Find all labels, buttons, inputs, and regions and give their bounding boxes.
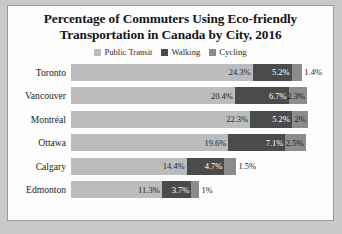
bar-value-label-walking: 5.2% xyxy=(272,114,290,124)
bar-track: 20.4%6.7%2.3% xyxy=(71,87,324,104)
bar-segment-public-transit[interactable]: 11.3% xyxy=(71,181,162,198)
bar-segment-walking[interactable]: 4.7% xyxy=(187,158,225,175)
bar-segment-public-transit[interactable]: 20.4% xyxy=(71,87,235,104)
category-label-toronto: Toronto xyxy=(8,67,71,78)
stacked-bar: 20.4%6.7%2.3% xyxy=(71,87,324,104)
legend-item-public-transit[interactable]: Public Transit xyxy=(94,47,152,57)
bar-segment-public-transit[interactable]: 19.6% xyxy=(71,134,228,151)
bar-value-label-walking: 5.2% xyxy=(272,67,290,77)
category-label-montral: Montréal xyxy=(8,114,71,125)
bar-value-label-walking: 6.7% xyxy=(269,91,287,101)
bar-segment-public-transit[interactable]: 24.3% xyxy=(71,64,253,81)
bar-track: 24.3%5.2%1.4% xyxy=(71,64,324,81)
bar-segment-cycling[interactable]: 2% xyxy=(292,111,308,128)
legend-item-cycling[interactable]: Cycling xyxy=(209,47,246,57)
category-label-edmonton: Edmonton xyxy=(8,184,71,195)
legend-swatch-cycling xyxy=(209,49,216,56)
legend-swatch-walking xyxy=(161,49,168,56)
bar-value-label-walking: 3.7% xyxy=(172,185,190,195)
bar-value-label-cycling: 2% xyxy=(295,114,306,124)
bar-row: Calgary14.4%4.7%1.5% xyxy=(8,157,324,175)
bar-value-label-walking: 4.7% xyxy=(205,161,223,171)
bar-segment-public-transit[interactable]: 22.3% xyxy=(71,111,250,128)
bar-segment-walking[interactable]: 5.2% xyxy=(250,111,292,128)
bar-track: 11.3%3.7%1% xyxy=(71,181,324,198)
bar-segment-cycling[interactable] xyxy=(224,158,236,175)
bar-row: Edmonton11.3%3.7%1% xyxy=(8,181,324,199)
bar-value-label-wrap-cycling: 1% xyxy=(199,181,214,198)
chart-title-line-2: Transportation in Canada by City, 2016 xyxy=(16,27,325,43)
bar-value-label-public-transit: 19.6% xyxy=(204,138,226,148)
bar-value-label-public-transit: 20.4% xyxy=(211,91,233,101)
chart-title-line-1: Percentage of Commuters Using Eco-friend… xyxy=(16,11,325,27)
chart-legend: Public Transit Walking Cycling xyxy=(8,46,333,58)
stacked-bar: 22.3%5.2%2% xyxy=(71,111,324,128)
plot-area: Toronto24.3%5.2%1.4%Vancouver20.4%6.7%2.… xyxy=(8,63,333,199)
bar-segment-walking[interactable]: 3.7% xyxy=(162,181,192,198)
bar-value-label-wrap-cycling: 1.5% xyxy=(236,158,258,175)
bar-segment-cycling[interactable]: 2.5% xyxy=(285,134,305,151)
legend-label-public-transit: Public Transit xyxy=(104,47,152,57)
stacked-bar: 24.3%5.2%1.4% xyxy=(71,64,324,81)
category-label-vancouver: Vancouver xyxy=(8,90,71,101)
stacked-bar: 14.4%4.7%1.5% xyxy=(71,158,324,175)
bar-segment-walking[interactable]: 7.1% xyxy=(228,134,285,151)
bar-segment-walking[interactable]: 6.7% xyxy=(235,87,289,104)
bar-row: Vancouver20.4%6.7%2.3% xyxy=(8,87,324,105)
bar-track: 19.6%7.1%2.5% xyxy=(71,134,324,151)
bar-row: Ottawa19.6%7.1%2.5% xyxy=(8,134,324,152)
bar-value-label-public-transit: 11.3% xyxy=(138,185,160,195)
chart-container: Percentage of Commuters Using Eco-friend… xyxy=(7,5,334,221)
bar-value-label-cycling: 1.4% xyxy=(302,67,322,77)
legend-item-walking[interactable]: Walking xyxy=(161,47,200,57)
chart-title: Percentage of Commuters Using Eco-friend… xyxy=(8,6,333,42)
bar-track: 14.4%4.7%1.5% xyxy=(71,158,324,175)
bar-track: 22.3%5.2%2% xyxy=(71,111,324,128)
stacked-bar: 11.3%3.7%1% xyxy=(71,181,324,198)
bar-value-label-cycling: 2.3% xyxy=(287,91,305,101)
legend-swatch-public-transit xyxy=(94,49,101,56)
category-label-calgary: Calgary xyxy=(8,161,71,172)
bar-value-label-public-transit: 24.3% xyxy=(229,67,251,77)
bar-value-label-walking: 7.1% xyxy=(266,138,284,148)
stacked-bar: 19.6%7.1%2.5% xyxy=(71,134,324,151)
bar-value-label-cycling: 1% xyxy=(199,185,212,195)
bar-segment-cycling[interactable]: 2.3% xyxy=(289,87,307,104)
bar-value-label-public-transit: 22.3% xyxy=(226,114,248,124)
category-label-ottawa: Ottawa xyxy=(8,137,71,148)
bar-value-label-wrap-cycling: 1.4% xyxy=(302,64,324,81)
legend-label-cycling: Cycling xyxy=(219,47,246,57)
bar-value-label-cycling: 1.5% xyxy=(236,161,256,171)
bar-segment-cycling[interactable] xyxy=(191,181,199,198)
bar-row: Toronto24.3%5.2%1.4% xyxy=(8,63,324,81)
legend-label-walking: Walking xyxy=(171,47,200,57)
bar-row: Montréal22.3%5.2%2% xyxy=(8,110,324,128)
bar-value-label-public-transit: 14.4% xyxy=(163,161,185,171)
bar-value-label-cycling: 2.5% xyxy=(286,138,304,148)
bar-segment-public-transit[interactable]: 14.4% xyxy=(71,158,187,175)
bar-segment-walking[interactable]: 5.2% xyxy=(253,64,292,81)
bar-segment-cycling[interactable] xyxy=(292,64,303,81)
